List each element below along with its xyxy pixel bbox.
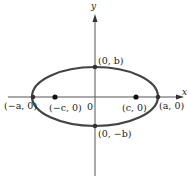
- focus-left-label: (−c, 0): [49, 103, 82, 113]
- vertex-right-label: (a, 0): [159, 101, 184, 111]
- focus-left-point: [52, 94, 57, 99]
- focus-right-point: [133, 94, 138, 99]
- covertex-bottom-label: (0, −b): [98, 129, 132, 139]
- covertex-top-label: (0, b): [98, 56, 124, 66]
- vertex-right-point: [156, 95, 161, 100]
- vertex-left-label: (−a, 0): [4, 101, 37, 111]
- focus-right-label: (c, 0): [122, 103, 147, 113]
- origin-label: 0: [87, 102, 93, 112]
- ellipse-diagram: [0, 0, 189, 176]
- y-axis-arrow-icon: [93, 14, 98, 22]
- y-axis-label: y: [91, 2, 96, 11]
- vertex-left-point: [31, 95, 36, 100]
- covertex-bottom-point: [93, 124, 98, 129]
- covertex-top-point: [93, 65, 98, 70]
- x-axis-label: x: [182, 88, 187, 97]
